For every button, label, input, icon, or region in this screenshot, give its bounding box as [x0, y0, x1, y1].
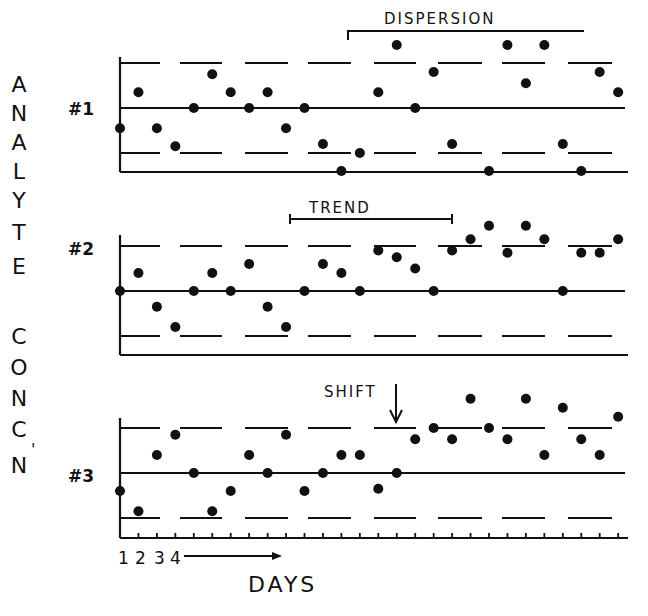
data-point	[392, 40, 402, 50]
ylabel-letter: O	[8, 357, 30, 379]
panel-label-3: #3	[68, 466, 94, 486]
data-point	[244, 450, 254, 460]
data-point	[226, 87, 236, 97]
data-point	[263, 468, 273, 478]
data-point	[244, 103, 254, 113]
ylabel-letter: N	[8, 103, 30, 125]
data-point	[466, 394, 476, 404]
data-point	[170, 430, 180, 440]
data-point	[447, 139, 457, 149]
data-point	[373, 246, 383, 256]
data-point	[189, 286, 199, 296]
data-point	[447, 434, 457, 444]
data-point	[207, 69, 217, 79]
data-point	[521, 394, 531, 404]
ylabel-letter: A	[8, 132, 30, 154]
ylabel-letter: C	[8, 419, 30, 441]
data-point	[300, 286, 310, 296]
data-point	[613, 412, 623, 422]
ylabel-letter: A	[8, 74, 30, 96]
data-point	[281, 430, 291, 440]
data-point	[281, 322, 291, 332]
data-point	[410, 103, 420, 113]
data-point	[447, 246, 457, 256]
data-point	[429, 67, 439, 77]
data-point	[558, 139, 568, 149]
data-point	[521, 78, 531, 88]
data-point	[410, 434, 420, 444]
data-point	[152, 302, 162, 312]
x-tick-label-4: 4	[170, 548, 181, 568]
data-point	[300, 103, 310, 113]
data-point	[133, 506, 143, 516]
data-point	[558, 286, 568, 296]
data-point	[613, 234, 623, 244]
data-point	[318, 468, 328, 478]
data-point	[558, 403, 568, 413]
data-point	[281, 123, 291, 133]
x-tick-label-3: 3	[154, 548, 165, 568]
data-point	[263, 302, 273, 312]
data-point	[355, 450, 365, 460]
data-point	[539, 40, 549, 50]
data-point	[539, 450, 549, 460]
data-point	[576, 248, 586, 258]
days-arrow-head	[272, 552, 282, 560]
data-point	[502, 434, 512, 444]
ylabel-letter: L	[8, 161, 30, 183]
data-point	[429, 423, 439, 433]
data-point	[502, 248, 512, 258]
ylabel-letter: T	[8, 222, 30, 244]
data-point	[595, 450, 605, 460]
data-point	[595, 248, 605, 258]
data-point	[300, 486, 310, 496]
data-point	[373, 484, 383, 494]
data-point	[318, 259, 328, 269]
data-point	[373, 87, 383, 97]
x-tick-label-2: 2	[135, 548, 146, 568]
data-point	[484, 423, 494, 433]
data-point	[429, 286, 439, 296]
data-point	[170, 322, 180, 332]
data-point	[318, 139, 328, 149]
data-point	[226, 486, 236, 496]
data-point	[539, 234, 549, 244]
data-point	[613, 87, 623, 97]
panel-label-1: #1	[68, 99, 94, 119]
data-point	[576, 166, 586, 176]
x-axis-title: DAYS	[248, 572, 317, 597]
ylabel-letter: C	[8, 326, 30, 348]
data-point	[502, 40, 512, 50]
data-point	[133, 268, 143, 278]
data-point	[336, 268, 346, 278]
data-point	[521, 221, 531, 231]
data-point	[170, 141, 180, 151]
data-point	[207, 506, 217, 516]
data-point	[355, 148, 365, 158]
data-point	[244, 259, 254, 269]
data-point	[152, 123, 162, 133]
data-point	[484, 166, 494, 176]
data-point	[484, 221, 494, 231]
data-point	[336, 166, 346, 176]
x-tick-label-1: 1	[118, 548, 129, 568]
control-chart	[0, 0, 648, 616]
data-point	[263, 87, 273, 97]
ylabel-letter: N	[8, 388, 30, 410]
shift-annotation: SHIFT	[324, 383, 377, 401]
dispersion-annotation: DISPERSION	[384, 10, 495, 28]
ylabel-apostrophe: '	[31, 440, 35, 459]
trend-annotation: TREND	[309, 199, 371, 217]
data-point	[576, 434, 586, 444]
ylabel-letter: N	[8, 455, 30, 477]
dispersion-bracket	[348, 31, 584, 40]
data-point	[115, 486, 125, 496]
ylabel-letter: Y	[8, 190, 30, 212]
data-point	[115, 286, 125, 296]
data-point	[595, 67, 605, 77]
data-point	[392, 468, 402, 478]
data-point	[115, 123, 125, 133]
data-point	[189, 468, 199, 478]
data-point	[392, 252, 402, 262]
data-point	[336, 450, 346, 460]
